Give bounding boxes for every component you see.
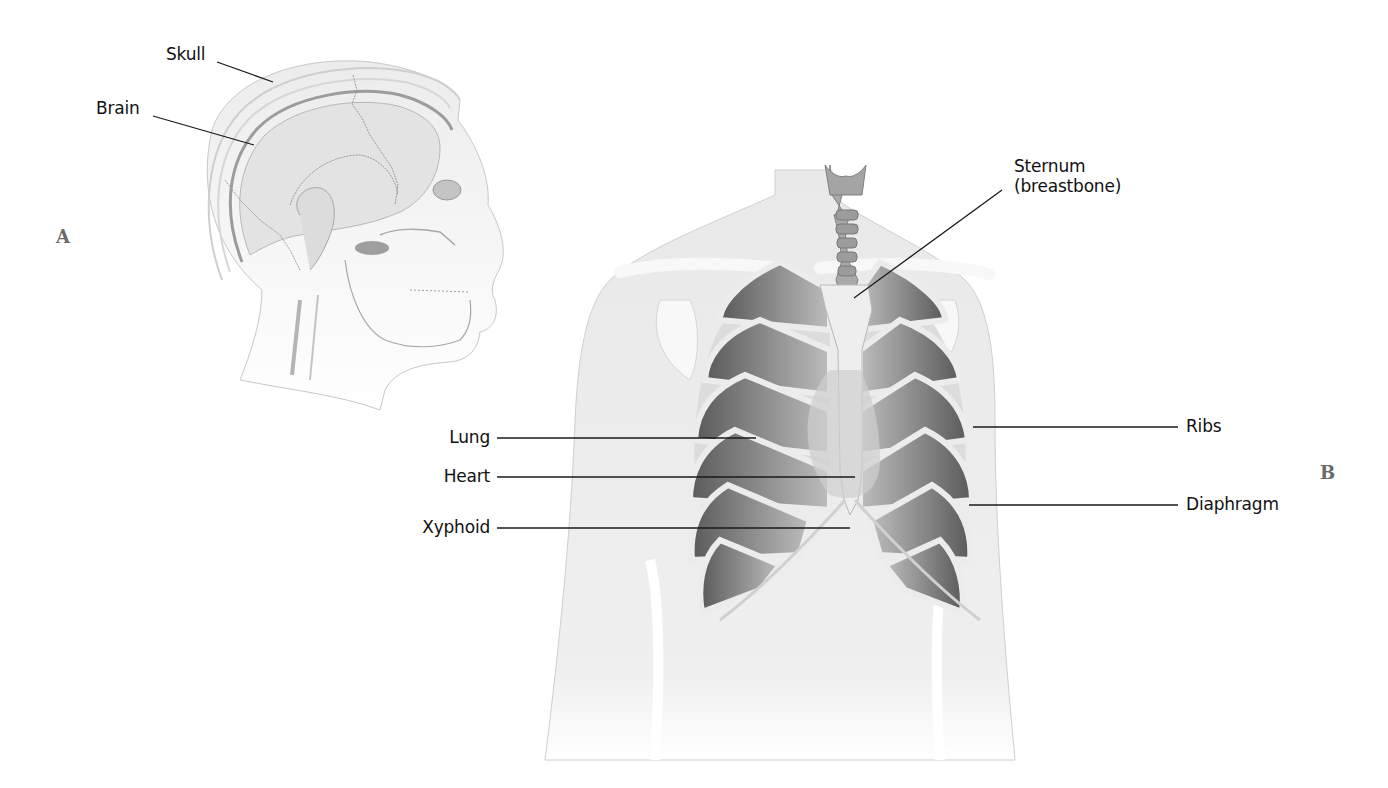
panel-letter-b: B — [1320, 462, 1335, 483]
label-lung: Lung — [400, 427, 490, 447]
label-sternum: Sternum — [1014, 156, 1085, 176]
label-diaphragm: Diaphragm — [1186, 494, 1279, 514]
label-xyphoid: Xyphoid — [380, 517, 490, 537]
figure-artwork — [0, 0, 1388, 788]
label-heart: Heart — [400, 466, 490, 486]
label-skull: Skull — [166, 44, 205, 64]
torso-illustration — [545, 165, 1015, 760]
label-sternum-sub: (breastbone) — [1014, 176, 1121, 196]
label-ribs: Ribs — [1186, 416, 1221, 436]
leader-skull — [217, 62, 273, 82]
panel-letter-a: A — [56, 226, 70, 247]
anatomy-figure: A B Skull Brain Sternum (breastbone) Lun… — [0, 0, 1388, 788]
head-illustration — [207, 61, 503, 410]
label-brain: Brain — [96, 98, 140, 118]
